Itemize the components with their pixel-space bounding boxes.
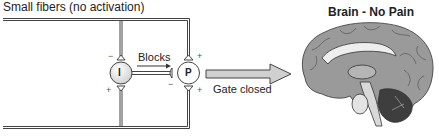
sign-p-top: + [197,52,202,61]
neuron-i-label: I [118,68,121,78]
brain-title: Brain - No Pain [328,5,414,19]
blocks-label: Blocks [138,51,170,63]
synapse-terminal-icon [117,86,193,91]
fiber-title: Small fibers (no activation) [3,0,144,14]
blocks-arrow-icon [137,64,171,69]
sign-i-bottom: + [106,86,111,95]
inhibitory-connection [132,68,172,78]
gate-control-diagram [0,0,439,136]
neuron-p-label: P [185,68,192,78]
large-fiber-bottom [3,90,190,129]
sign-i-top: − [108,52,113,61]
brain-icon [302,23,433,126]
sign-p-bottom: + [197,86,202,95]
sign-p-left: − [168,80,173,89]
neuron-i [110,62,132,84]
gate-closed-label: Gate closed [213,83,272,95]
gate-arrow-icon [206,64,291,84]
